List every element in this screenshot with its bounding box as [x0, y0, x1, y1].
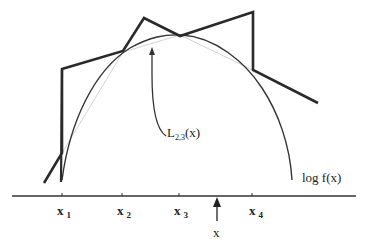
- lower-hull-arg: (x): [185, 125, 200, 140]
- diagram-canvas: L2,3(x) log f(x) x1 x2 x3 x4 x: [0, 0, 370, 251]
- tick-label-x2: x2: [117, 203, 131, 220]
- tick-label-x1: x1: [57, 203, 71, 220]
- tick-label-x4: x4: [249, 203, 263, 220]
- log-density-label: log f(x): [302, 170, 341, 186]
- lower-hull-pointer: [152, 52, 166, 136]
- tick-main: x: [249, 203, 256, 218]
- tick-sub: 2: [127, 210, 132, 220]
- x-arrow-up-icon: [213, 197, 221, 207]
- tick-main: x: [117, 203, 124, 218]
- lower-hull-label: L2,3(x): [167, 125, 200, 142]
- tick-label-x3: x3: [174, 203, 188, 220]
- tick-main: x: [57, 203, 64, 218]
- tick-sub: 1: [67, 210, 72, 220]
- tick-main: x: [174, 203, 181, 218]
- pointer-arrowhead-icon: [149, 47, 155, 55]
- log-density-curve: [62, 35, 292, 180]
- lower-hull-sub: 2,3: [175, 133, 185, 142]
- tick-sub: 4: [259, 210, 264, 220]
- tick-sub: 3: [184, 210, 189, 220]
- lower-hull-main: L: [167, 125, 175, 140]
- point-x-label: x: [213, 225, 220, 241]
- chord-lines: [62, 35, 253, 153]
- upper-hull: [44, 12, 318, 183]
